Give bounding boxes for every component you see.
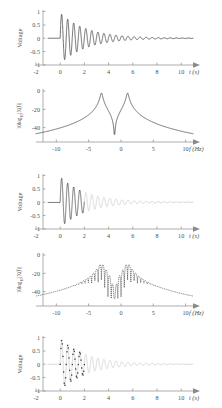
panel-3-waveform-tail bbox=[84, 193, 193, 211]
x-tick-label: 4 bbox=[107, 68, 110, 75]
x-tick-label: 0 bbox=[59, 394, 62, 401]
panel-4-spectrum-curve bbox=[36, 265, 193, 299]
panel-2-svg: 0 -20 -40 -10 -5 0 5 10 10log10|X(f)| bbox=[0, 84, 222, 164]
panel-4-axes bbox=[36, 253, 200, 309]
x-tick-label: -10 bbox=[52, 309, 60, 316]
x-tick-label: 0 bbox=[119, 309, 122, 316]
sample-point bbox=[74, 359, 75, 360]
sample-point bbox=[64, 383, 65, 384]
y-tick-label: 0.5 bbox=[32, 185, 40, 192]
panel-2-y-ticks: 0 -20 -40 bbox=[32, 87, 46, 131]
panel-2-spectrum: 0 -20 -40 -10 -5 0 5 10 10log10|X(f)| bbox=[0, 84, 222, 164]
x-tick-label: 10 bbox=[183, 309, 189, 316]
panel-2-spectrum-curve bbox=[36, 93, 193, 134]
sample-point bbox=[73, 349, 74, 350]
y-tick-label: 0.5 bbox=[32, 347, 40, 354]
x-tick-label: 10 bbox=[178, 394, 184, 401]
panel-5-svg: 1 0.5 0 -0.5 -1 -2 0 2 4 6 8 10 bbox=[0, 328, 222, 408]
x-tick-label: 2 bbox=[83, 68, 86, 75]
sample-point bbox=[60, 364, 61, 365]
sample-point bbox=[81, 367, 82, 368]
x-tick-label: 6 bbox=[131, 232, 134, 239]
y-tick-label: -40 bbox=[32, 124, 40, 131]
y-tick-label: 1 bbox=[37, 8, 40, 15]
panel-2-x-ticks: -10 -5 0 5 10 bbox=[52, 140, 189, 152]
panel-3-y-axis-label: Voltage bbox=[16, 192, 23, 211]
panel-4-y-ticks: 0 -20 -40 bbox=[32, 251, 46, 295]
x-tick-label: 6 bbox=[131, 68, 134, 75]
panel-1-svg: 1 0.5 0 -0.5 -1 -2 0 2 4 6 8 10 bbox=[0, 0, 222, 84]
x-tick-label: 0 bbox=[119, 145, 122, 152]
sample-point bbox=[80, 359, 81, 360]
y-tick-label: 1 bbox=[37, 172, 40, 179]
sample-point bbox=[69, 370, 70, 371]
panel-3-waveform bbox=[48, 178, 84, 223]
y-tick-label: -20 bbox=[32, 106, 40, 113]
sample-point bbox=[72, 354, 73, 355]
panel-4-x-ticks: -10 -5 0 5 10 bbox=[52, 304, 189, 316]
sample-point bbox=[66, 364, 67, 365]
x-tick-label: 6 bbox=[131, 394, 134, 401]
x-tick-label: -2 bbox=[33, 232, 38, 239]
x-tick-label: 0 bbox=[59, 232, 62, 239]
x-tick-label: 2 bbox=[83, 394, 86, 401]
panel-4-svg: 0 -20 -40 -10 -5 0 5 10 10log10|X(f)| bbox=[0, 248, 222, 328]
ylabel-post: |X(f)| bbox=[16, 103, 23, 114]
panel-1-x-axis-label: t (s) bbox=[189, 68, 199, 76]
sample-point bbox=[60, 348, 61, 349]
sample-point bbox=[71, 374, 72, 375]
sample-point bbox=[79, 352, 80, 353]
sample-point bbox=[62, 343, 63, 344]
panel-1-x-ticks: -2 0 2 4 6 8 10 bbox=[33, 63, 184, 75]
panel-1-y-axis-label: Voltage bbox=[16, 28, 23, 47]
panel-2-x-axis-label: f (Hz) bbox=[189, 145, 204, 153]
panel-5-sampled: 1 0.5 0 -0.5 -1 -2 0 2 4 6 8 10 bbox=[0, 328, 222, 408]
sample-point bbox=[75, 368, 76, 369]
sample-point bbox=[82, 373, 83, 374]
panel-4-y-axis-label: 10log10|X(f)| bbox=[16, 267, 24, 294]
sample-point bbox=[70, 379, 71, 380]
x-tick-label: 5 bbox=[152, 309, 155, 316]
y-tick-label: -0.5 bbox=[30, 212, 40, 219]
panel-3-time-domain-truncated: 1 0.5 0 -0.5 -1 -2 0 2 4 6 8 10 bbox=[0, 164, 222, 248]
y-tick-label: 0 bbox=[37, 199, 40, 206]
x-tick-label: 8 bbox=[155, 232, 158, 239]
x-tick-label: -5 bbox=[86, 145, 91, 152]
sample-point bbox=[62, 356, 63, 357]
x-tick-label: -2 bbox=[33, 68, 38, 75]
y-tick-label: 1 bbox=[37, 334, 40, 341]
x-tick-label: 10 bbox=[178, 232, 184, 239]
panel-5-x-axis-label: t (s) bbox=[189, 394, 199, 402]
ylabel-pre: 10log bbox=[16, 117, 22, 129]
sample-point bbox=[78, 364, 79, 365]
sample-point bbox=[83, 371, 84, 372]
sample-point bbox=[68, 357, 69, 358]
panel-5-x-ticks: -2 0 2 4 6 8 10 bbox=[33, 389, 184, 401]
y-tick-label: 0 bbox=[37, 361, 40, 368]
y-tick-label: -0.5 bbox=[30, 374, 40, 381]
x-tick-label: 4 bbox=[107, 232, 110, 239]
svg-text:10log10|X(f)|: 10log10|X(f)| bbox=[16, 267, 24, 294]
y-tick-label: -40 bbox=[32, 288, 40, 295]
x-tick-label: -5 bbox=[86, 309, 91, 316]
multi-panel-figure: 1 0.5 0 -0.5 -1 -2 0 2 4 6 8 10 bbox=[0, 0, 222, 408]
x-tick-label: 5 bbox=[152, 145, 155, 152]
x-tick-label: 2 bbox=[83, 232, 86, 239]
y-tick-label: -20 bbox=[32, 270, 40, 277]
y-tick-label: 0 bbox=[37, 251, 40, 258]
x-tick-label: -10 bbox=[52, 145, 60, 152]
sample-point bbox=[63, 371, 64, 372]
x-tick-label: 10 bbox=[178, 68, 184, 75]
sample-point bbox=[74, 351, 75, 352]
ylabel-post: |X(f)| bbox=[16, 267, 23, 278]
x-tick-label: -2 bbox=[33, 394, 38, 401]
sample-point bbox=[61, 340, 62, 341]
sample-point bbox=[82, 374, 83, 375]
sample-point bbox=[78, 356, 79, 357]
sample-point bbox=[64, 385, 65, 386]
panel-4-x-axis-label: f (Hz) bbox=[189, 309, 204, 317]
panel-1-time-domain: 1 0.5 0 -0.5 -1 -2 0 2 4 6 8 10 bbox=[0, 0, 222, 84]
x-tick-label: 8 bbox=[155, 68, 158, 75]
sample-point bbox=[80, 353, 81, 354]
sample-point bbox=[68, 347, 69, 348]
